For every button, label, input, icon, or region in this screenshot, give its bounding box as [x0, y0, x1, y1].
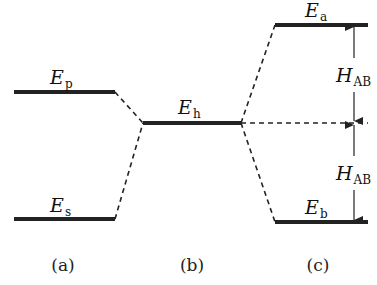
connector-eh-ea — [241, 25, 275, 123]
label-hab-upper: HAB — [335, 64, 371, 89]
connector-ep-eh — [115, 92, 143, 123]
connector-es-eh — [115, 123, 143, 219]
caption-c: (c) — [307, 255, 330, 275]
caption-b: (b) — [180, 255, 204, 275]
connector-eh-eb — [241, 123, 275, 222]
label-ep: Ep — [49, 66, 73, 91]
label-eb: Eb — [304, 196, 328, 221]
energy-level-diagram: Ep Es Eh Ea Eb HAB HAB (a) (b) (c) — [0, 0, 377, 285]
label-es: Es — [49, 194, 71, 219]
label-hab-lower: HAB — [335, 162, 371, 187]
label-ea: Ea — [304, 0, 327, 24]
label-eh: Eh — [177, 96, 201, 121]
caption-a: (a) — [51, 255, 74, 275]
